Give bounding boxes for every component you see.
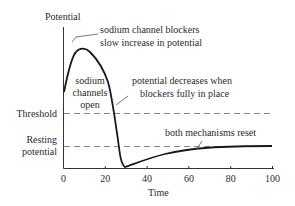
x-axis-label: Time [148, 187, 169, 198]
x-tick-labels: 0 20 40 60 80 100 [61, 173, 280, 184]
resting-label-line1: Resting [26, 134, 57, 145]
decrease-leader-line [116, 96, 128, 105]
x-tick-0: 0 [61, 173, 66, 184]
x-tick-20: 20 [100, 173, 110, 184]
action-potential-chart: Potential Time 0 20 40 60 80 100 Thresho… [0, 0, 295, 206]
chart-canvas: Potential Time 0 20 40 60 80 100 Thresho… [0, 0, 295, 206]
annotation-open-line2: channels [73, 87, 108, 98]
y-axis-label: Potential [45, 11, 81, 22]
resting-label-line2: potential [22, 146, 57, 157]
x-tick-80: 80 [226, 173, 236, 184]
annotation-reset: both mechanisms reset [165, 127, 256, 138]
annotation-decrease-line2: blockers fully in place [140, 88, 230, 99]
x-tick-40: 40 [142, 173, 152, 184]
threshold-label: Threshold [16, 108, 57, 119]
annotation-decrease-line1: potential decreases when [132, 75, 232, 86]
x-tick-60: 60 [184, 173, 194, 184]
annotation-open-line1: sodium [75, 75, 105, 86]
annotation-blockers-line2: slow increase in potential [100, 37, 202, 48]
x-tick-100: 100 [265, 173, 280, 184]
annotation-blockers-line1: sodium channel blockers [100, 24, 200, 35]
annotation-open-line3: open [80, 99, 99, 110]
blockers-leader-line [72, 34, 98, 42]
